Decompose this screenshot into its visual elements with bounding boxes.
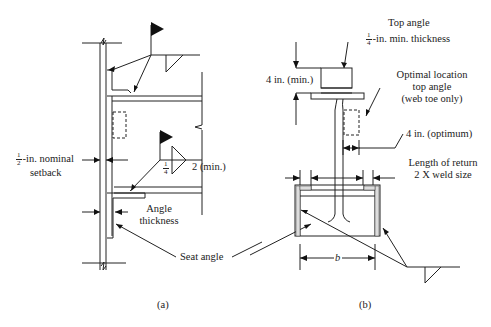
optimal-location-line3: (web toe only) — [382, 93, 482, 105]
angle-thickness-label-line1: Angle — [134, 203, 184, 215]
return-length-line2: 2 X weld size — [398, 169, 488, 181]
seat-angle-label: Seat angle — [180, 251, 223, 263]
setback-fraction: 12 — [16, 152, 22, 167]
weld-flag-icon — [151, 22, 164, 36]
weld-size-fraction: 14 — [163, 161, 170, 176]
optimal-location-line1: Optimal location — [382, 69, 482, 81]
panel-a-caption: (a) — [157, 299, 169, 311]
setback-label-line2: setback — [30, 167, 62, 179]
panel-b-caption: (b) — [359, 299, 371, 311]
four-in-min-label: 4 in. (min.) — [266, 74, 313, 86]
thickness-label: 14-in. min. thickness — [366, 32, 450, 47]
weld-flag-icon — [160, 130, 173, 144]
four-in-optimum-label: 4 in. (optimum) — [406, 128, 472, 140]
dimension-b-label: b — [335, 252, 340, 264]
optimal-location-line2: top angle — [382, 81, 482, 93]
angle-thickness-label-line2: thickness — [129, 215, 189, 227]
top-angle-label: Top angle — [388, 17, 430, 29]
weld-length-label: 2 (min.) — [192, 161, 226, 173]
return-length-line1: Length of return — [398, 157, 488, 169]
setback-label: 12-in. nominal — [16, 152, 74, 167]
